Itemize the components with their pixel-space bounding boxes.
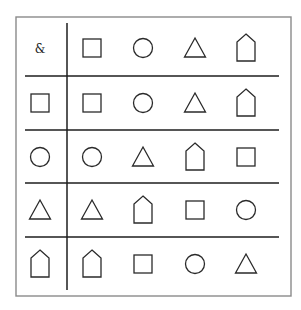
cell-r2c2-triangle-icon (133, 147, 154, 166)
column-header-1-square-icon (83, 39, 101, 57)
row-header-2-circle-icon (31, 148, 50, 167)
column-header-4-house-icon (237, 34, 255, 61)
cell-r3c1-triangle-icon (82, 200, 103, 219)
cell-r4c1-house-icon (83, 250, 101, 277)
cell-r1c4-house-icon (237, 89, 255, 116)
outer-frame (16, 17, 291, 296)
cell-r3c4-circle-icon (237, 201, 256, 220)
shapes-layer (30, 34, 257, 277)
cell-r2c1-circle-icon (83, 148, 102, 167)
cell-r1c1-square-icon (83, 94, 101, 112)
cell-r3c3-square-icon (186, 201, 204, 219)
row-header-4-house-icon (31, 250, 49, 277)
column-header-2-circle-icon (134, 39, 153, 58)
shape-table-diagram: & (0, 0, 301, 310)
column-header-3-triangle-icon (185, 38, 206, 57)
header-symbol: & (35, 42, 46, 56)
cell-r2c4-square-icon (237, 148, 255, 166)
cell-r1c2-circle-icon (134, 94, 153, 113)
cell-r4c3-circle-icon (186, 255, 205, 274)
cell-r3c2-house-icon (134, 196, 152, 223)
row-header-1-square-icon (31, 94, 49, 112)
cell-r1c3-triangle-icon (185, 93, 206, 112)
cell-r4c2-square-icon (134, 255, 152, 273)
row-header-3-triangle-icon (30, 200, 51, 219)
cell-r4c4-triangle-icon (236, 254, 257, 273)
cell-r2c3-house-icon (186, 143, 204, 170)
